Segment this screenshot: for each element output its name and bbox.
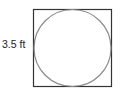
inscribed-circle <box>34 10 111 87</box>
side-length-label: 3.5 ft <box>2 38 25 50</box>
